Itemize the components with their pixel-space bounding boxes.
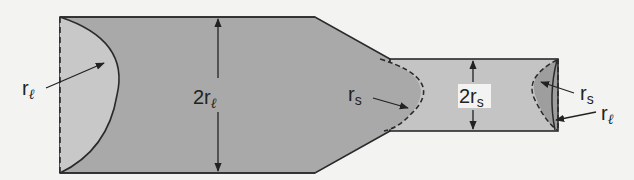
left-radius-label: rℓ	[22, 77, 35, 102]
right-large-radius-label: rℓ	[601, 102, 614, 127]
right-large-radius-arrow	[556, 112, 596, 120]
capillary-tube-diagram: 2rℓ rℓ rs 2rs rs rℓ	[0, 0, 634, 180]
right-small-radius-label: rs	[580, 82, 594, 107]
